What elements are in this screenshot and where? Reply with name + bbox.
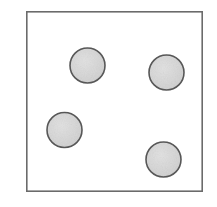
dot-top-left — [70, 48, 105, 83]
four-dot-figure — [0, 0, 217, 207]
dot-top-right — [149, 55, 184, 90]
diagram-canvas — [0, 0, 217, 207]
dot-bottom-left — [47, 113, 82, 148]
dot-bottom-right — [146, 142, 181, 177]
